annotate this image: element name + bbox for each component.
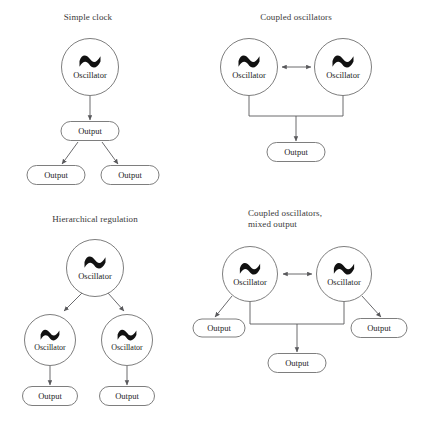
panel-title-line: Coupled oscillators xyxy=(260,12,332,22)
oscillator-circle xyxy=(317,247,372,302)
oscillator-node-right[interactable]: Oscillator xyxy=(317,247,372,302)
panel-title-line: Hierarchical regulation xyxy=(52,214,138,224)
panel-title-line: Simple clock xyxy=(64,12,113,22)
oscillator-circle xyxy=(315,39,372,96)
oscillator-node-child-right[interactable]: Oscillator xyxy=(102,315,153,366)
output-label: Output xyxy=(367,323,391,333)
oscillator-circle xyxy=(221,39,278,96)
oscillator-node-left[interactable]: Oscillator xyxy=(221,39,278,96)
panel-title-coupled-oscillators: Coupled oscillators xyxy=(260,12,332,22)
output-label: Output xyxy=(38,391,62,401)
output-label: Output xyxy=(285,358,309,368)
oscillator-label: Oscillator xyxy=(326,70,360,80)
oscillator-label: Oscillator xyxy=(232,70,266,80)
output-node-right[interactable]: Output xyxy=(101,166,159,185)
output-node-left[interactable]: Output xyxy=(27,166,85,185)
output-label: Output xyxy=(78,126,102,136)
oscillator-node-left[interactable]: Oscillator xyxy=(223,247,278,302)
output-label: Output xyxy=(284,147,308,157)
oscillator-network-figure: Simple clockOscillatorOutputOutputOutput… xyxy=(0,0,429,431)
panel-title-line: Coupled oscillators, xyxy=(248,208,322,218)
output-label: Output xyxy=(207,323,231,333)
oscillator-node-child-left[interactable]: Oscillator xyxy=(25,315,76,366)
oscillator-node-right[interactable]: Oscillator xyxy=(315,39,372,96)
panel-title-line: mixed output xyxy=(248,219,297,229)
output-node-right[interactable]: Output xyxy=(100,387,155,406)
output-node-right-side[interactable]: Output xyxy=(351,319,407,338)
oscillator-label: Oscillator xyxy=(34,343,66,352)
output-node-left-side[interactable]: Output xyxy=(193,319,245,337)
oscillator-node-root[interactable]: Oscillator xyxy=(67,240,124,297)
oscillator-circle xyxy=(62,39,119,96)
panel-title-simple-clock: Simple clock xyxy=(64,12,113,22)
oscillator-label: Oscillator xyxy=(73,70,107,80)
oscillator-circle xyxy=(102,315,153,366)
oscillator-node-root[interactable]: Oscillator xyxy=(62,39,119,96)
output-label: Output xyxy=(115,391,139,401)
oscillator-circle xyxy=(67,240,124,297)
oscillator-label: Oscillator xyxy=(78,271,112,281)
output-node-primary[interactable]: Output xyxy=(61,122,119,141)
output-node-left[interactable]: Output xyxy=(23,387,78,406)
panel-title-hierarchical-regulation: Hierarchical regulation xyxy=(52,214,138,224)
output-node-center[interactable]: Output xyxy=(268,354,326,373)
oscillator-label: Oscillator xyxy=(111,343,143,352)
output-label: Output xyxy=(44,170,68,180)
output-label: Output xyxy=(118,170,142,180)
output-node-primary[interactable]: Output xyxy=(267,143,325,162)
oscillator-circle xyxy=(25,315,76,366)
oscillator-circle xyxy=(223,247,278,302)
oscillator-label: Oscillator xyxy=(233,277,267,287)
oscillator-label: Oscillator xyxy=(327,277,361,287)
figure-canvas: Simple clockOscillatorOutputOutputOutput… xyxy=(0,0,429,431)
